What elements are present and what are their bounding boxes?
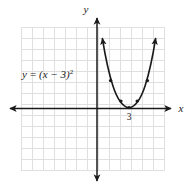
curve-point-marker: [119, 99, 122, 102]
curve-point-marker: [146, 79, 149, 82]
parabola-curve: [102, 39, 155, 108]
curve-point-marker: [127, 106, 130, 109]
equation-lhs: y: [21, 68, 27, 80]
equation-body: (x − 3): [39, 68, 70, 81]
y-axis-label: y: [83, 3, 89, 15]
equation-annotation: y=(x − 3)2: [21, 68, 74, 81]
svg-text:y=(x − 3)2: y=(x − 3)2: [21, 68, 74, 81]
x-axis-label: x: [178, 102, 184, 114]
grid-lines: [21, 27, 165, 171]
equation-exponent: 2: [70, 68, 74, 76]
curve-point-marker: [136, 99, 139, 102]
equation-equals: =: [30, 68, 36, 80]
graph-figure: y x 3 y=(x − 3)2: [0, 0, 191, 190]
x-tick-label-3: 3: [127, 112, 132, 122]
curve-point-marker: [109, 79, 112, 82]
coordinate-plane-svg: y x 3 y=(x − 3)2: [0, 0, 191, 190]
